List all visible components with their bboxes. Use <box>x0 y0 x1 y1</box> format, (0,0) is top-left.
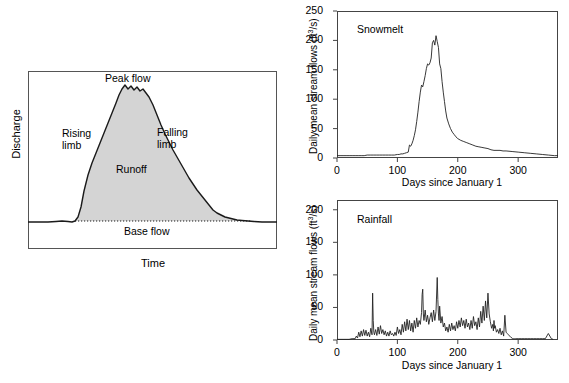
snowmelt-y-axis-label: Daily mean stream flows (ft3/s) <box>307 1 319 171</box>
rainfall-xtick-label: 200 <box>443 346 473 358</box>
annotation-rising-limb-line2: limb <box>62 139 81 151</box>
snowmelt-xtick-label: 100 <box>382 164 412 176</box>
snowmelt-ytick-label: 150 <box>295 63 323 75</box>
rainfall-ytick-label: 0 <box>295 333 323 345</box>
annotation-peak-flow: Peak flow <box>105 73 151 85</box>
annotation-falling-limb-line2: limb <box>157 138 176 150</box>
snowmelt-ytick-label: 100 <box>295 92 323 104</box>
rainfall-ytick-label: 50 <box>295 300 323 312</box>
snowmelt-xtick-label: 0 <box>322 164 352 176</box>
rainfall-ytick-label: 200 <box>295 203 323 215</box>
snowmelt-ytick-label: 50 <box>295 122 323 134</box>
annotation-falling-limb-line1: Falling <box>157 126 188 138</box>
rainfall-ytick-label: 100 <box>295 268 323 280</box>
rainfall-xtick-label: 100 <box>382 346 412 358</box>
hydrograph-y-axis-label: Discharge <box>10 94 22 174</box>
snowmelt-xtick-label: 300 <box>503 164 533 176</box>
rainfall-plot-title: Rainfall <box>357 213 392 225</box>
rainfall-x-axis-label: Days since January 1 <box>377 359 527 371</box>
hydrograph-curve-svg <box>28 71 277 249</box>
rainfall-ytick-label: 150 <box>295 235 323 247</box>
annotation-falling-limb: Falling limb <box>157 127 188 150</box>
rainfall-xtick-label: 300 <box>503 346 533 358</box>
runoff-area <box>75 85 252 221</box>
snowmelt-ytick-label: 200 <box>295 33 323 45</box>
annotation-rising-limb-line1: Rising <box>62 127 91 139</box>
rainfall-xtick-label: 0 <box>322 346 352 358</box>
annotation-rising-limb: Rising limb <box>62 128 91 151</box>
rainfall-chart-panel: Daily mean stream flows (ft3/s) Days sin… <box>285 191 569 383</box>
snowmelt-chart-panel: Daily mean stream flows (ft3/s) Days sin… <box>285 0 569 192</box>
hydrograph-x-axis-label: Time <box>88 257 218 269</box>
snowmelt-x-axis-label: Days since January 1 <box>377 176 527 188</box>
annotation-runoff: Runoff <box>116 164 147 176</box>
annotation-base-flow: Base flow <box>124 226 170 238</box>
snowmelt-ytick-label: 0 <box>295 151 323 163</box>
hydrograph-diagram-panel: Discharge Time Peak flow Rising limb Fal… <box>0 0 290 383</box>
snowmelt-plot-title: Snowmelt <box>357 23 403 35</box>
snowmelt-ytick-label: 250 <box>295 4 323 16</box>
snowmelt-xtick-label: 200 <box>443 164 473 176</box>
